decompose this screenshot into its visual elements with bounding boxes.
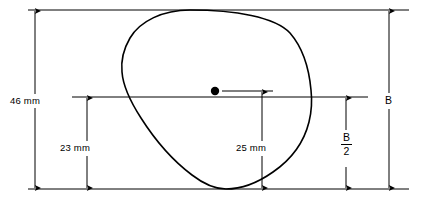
dimension-label-46mm: 46 mm — [10, 96, 40, 106]
reference-lines — [28, 10, 409, 189]
dimension-label-b-over-2: B 2 — [340, 132, 353, 157]
fraction-denominator: 2 — [340, 146, 353, 157]
dimension-label-23mm: 23 mm — [60, 143, 90, 153]
cam-profile-outline — [122, 10, 312, 189]
dimension-label-25mm: 25 mm — [236, 143, 266, 153]
diagram-svg — [0, 0, 421, 201]
fraction-numerator: B — [340, 132, 353, 143]
dimension-label-b: B — [385, 95, 392, 106]
center-dot — [211, 87, 219, 95]
diagram-canvas: 46 mm 23 mm 25 mm B B 2 — [0, 0, 421, 201]
center-point-group — [211, 87, 273, 95]
